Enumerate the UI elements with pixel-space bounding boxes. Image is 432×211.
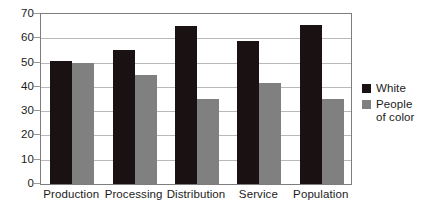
legend-label: White	[376, 82, 406, 95]
y-tick-label: 60	[21, 32, 34, 43]
x-tick-label: Population	[290, 188, 352, 201]
bar	[197, 99, 219, 184]
bars	[41, 14, 351, 184]
legend-label: People of color	[376, 98, 415, 124]
bar-group	[237, 14, 281, 184]
legend-swatch-icon	[362, 100, 371, 109]
y-tick-label: 40	[21, 81, 34, 92]
y-tick-label: 30	[21, 105, 34, 116]
legend-swatch-icon	[362, 84, 371, 93]
bar	[322, 99, 344, 184]
bar	[113, 50, 135, 184]
x-axis: ProductionProcessingDistributionServiceP…	[40, 186, 352, 208]
bar-group	[50, 14, 94, 184]
bar	[135, 75, 157, 184]
plot-area	[40, 13, 352, 185]
y-tick-label: 50	[21, 57, 34, 68]
bar	[50, 61, 72, 184]
y-tick-label: 10	[21, 154, 34, 165]
bar	[259, 83, 281, 184]
bar-chart: 010203040506070 ProductionProcessingDist…	[0, 0, 432, 211]
x-tick-label: Distribution	[165, 188, 227, 201]
y-tick-label: 70	[21, 8, 34, 19]
bar	[175, 26, 197, 184]
bar-group	[113, 14, 157, 184]
bar	[237, 41, 259, 184]
y-tick-label: 20	[21, 129, 34, 140]
x-tick-label: Processing	[102, 188, 164, 201]
legend-item: People of color	[362, 98, 432, 124]
bar-group	[300, 14, 344, 184]
bar	[72, 63, 94, 184]
bar-group	[175, 14, 219, 184]
x-tick-label: Production	[40, 188, 102, 201]
legend: WhitePeople of color	[362, 82, 432, 127]
bar	[300, 25, 322, 184]
y-axis: 010203040506070	[0, 0, 40, 211]
legend-item: White	[362, 82, 432, 95]
x-tick-label: Service	[227, 188, 289, 201]
